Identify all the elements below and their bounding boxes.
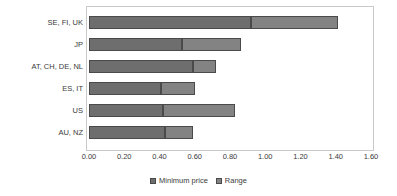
bar-row: AT, CH, DE, NL bbox=[0, 56, 397, 78]
category-label: AU, NZ bbox=[0, 122, 83, 144]
bar-chart: SE, FI, UKJPAT, CH, DE, NLES, ITUSAU, NZ… bbox=[0, 0, 397, 196]
bar-segment-minimum-price bbox=[89, 60, 193, 73]
bar-track bbox=[89, 38, 371, 51]
bar-row: SE, FI, UK bbox=[0, 12, 397, 34]
bar-row: JP bbox=[0, 34, 397, 56]
bar-segment-range bbox=[251, 16, 337, 29]
bar-segment-range bbox=[182, 38, 240, 51]
bar-segment-range bbox=[163, 104, 235, 117]
x-axis-tick-label: 1.00 bbox=[245, 152, 285, 161]
bar-track bbox=[89, 82, 371, 95]
bar-segment-minimum-price bbox=[89, 82, 161, 95]
legend-item[interactable]: Range bbox=[216, 176, 247, 185]
x-axis-tick-label: 0.60 bbox=[175, 152, 215, 161]
x-axis-tick-label: 0.40 bbox=[140, 152, 180, 161]
bar-segment-range bbox=[193, 60, 216, 73]
bar-track bbox=[89, 104, 371, 117]
bar-segment-range bbox=[161, 82, 194, 95]
bar-track bbox=[89, 60, 371, 73]
bar-track bbox=[89, 126, 371, 139]
legend-item[interactable]: Minimum price bbox=[150, 176, 208, 185]
bar-track bbox=[89, 16, 371, 29]
legend-swatch-icon bbox=[150, 178, 156, 184]
bar-segment-minimum-price bbox=[89, 126, 165, 139]
bar-segment-minimum-price bbox=[89, 38, 182, 51]
chart-legend: Minimum priceRange bbox=[0, 176, 397, 185]
legend-swatch-icon bbox=[216, 178, 222, 184]
x-axis-tick-label: 0.00 bbox=[69, 152, 109, 161]
x-axis-tick-label: 0.80 bbox=[210, 152, 250, 161]
category-label: AT, CH, DE, NL bbox=[0, 56, 83, 78]
x-axis-tick-label: 1.20 bbox=[281, 152, 321, 161]
x-axis: 0.000.200.400.600.801.001.201.401.60 bbox=[0, 152, 397, 166]
bar-segment-minimum-price bbox=[89, 104, 163, 117]
bar-row: ES, IT bbox=[0, 78, 397, 100]
bar-segment-minimum-price bbox=[89, 16, 251, 29]
category-label: JP bbox=[0, 34, 83, 56]
bar-row: AU, NZ bbox=[0, 122, 397, 144]
x-axis-tick-label: 0.20 bbox=[104, 152, 144, 161]
legend-label: Range bbox=[225, 176, 247, 185]
category-label: ES, IT bbox=[0, 78, 83, 100]
bar-row: US bbox=[0, 100, 397, 122]
legend-label: Minimum price bbox=[159, 176, 208, 185]
category-label: SE, FI, UK bbox=[0, 12, 83, 34]
category-label: US bbox=[0, 100, 83, 122]
x-axis-tick-label: 1.60 bbox=[351, 152, 391, 161]
x-axis-tick-label: 1.40 bbox=[316, 152, 356, 161]
bar-segment-range bbox=[165, 126, 193, 139]
